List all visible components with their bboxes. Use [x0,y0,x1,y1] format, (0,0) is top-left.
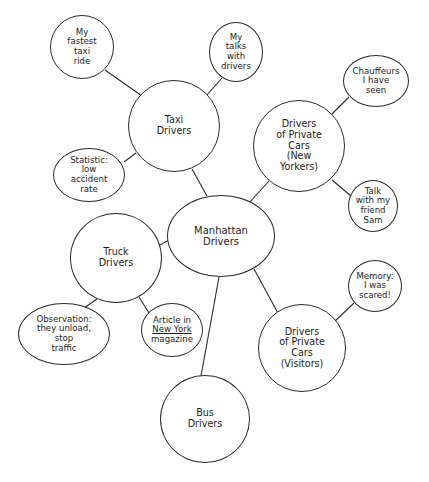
node-layer: Manhattan DriversTaxi DriversDrivers of … [0,0,429,482]
node-article-in-new-york-magazine[interactable]: Article inNew Yorkmagazine [141,303,203,357]
node-label-manhattan-drivers: Manhattan Drivers [191,225,251,247]
node-label-my-talks-with-drivers: My talks with drivers [218,33,254,72]
node-truck-drivers[interactable]: Truck Drivers [70,213,162,303]
node-label-article-in-new-york-magazine: Article inNew Yorkmagazine [148,316,196,345]
node-label-talk-with-my-friend-sam: Talk with my friend Sam [353,187,393,226]
node-my-fastest-taxi-ride[interactable]: My fastest taxi ride [50,15,114,79]
node-label-statistic-low-accident-rate: Statistic: low accident rate [67,156,111,195]
node-bus-drivers[interactable]: Bus Drivers [160,375,250,463]
node-label-observation-they-unload-stop-traffic: Observation: they unload, stop traffic [33,315,94,354]
node-label-memory-i-was-scared: Memory: I was scared! [353,272,396,301]
node-memory-i-was-scared[interactable]: Memory: I was scared! [348,260,402,312]
node-drivers-private-cars-visitors[interactable]: Drivers of Private Cars (Visitors) [258,304,346,392]
node-label-taxi-drivers: Taxi Drivers [154,115,195,136]
node-label-bus-drivers: Bus Drivers [185,408,226,429]
node-manhattan-drivers[interactable]: Manhattan Drivers [167,195,275,277]
node-taxi-drivers[interactable]: Taxi Drivers [128,80,220,172]
node-label-my-fastest-taxi-ride: My fastest taxi ride [64,28,99,67]
node-chauffeurs-i-have-seen[interactable]: Chauffeurs I have seen [343,55,409,107]
node-label-truck-drivers: Truck Drivers [96,247,137,268]
node-drivers-private-cars-new-yorkers[interactable]: Drivers of Private Cars (New Yorkers) [253,100,345,192]
node-my-talks-with-drivers[interactable]: My talks with drivers [209,22,263,82]
node-label-drivers-private-cars-new-yorkers: Drivers of Private Cars (New Yorkers) [273,119,325,173]
node-statistic-low-accident-rate[interactable]: Statistic: low accident rate [53,148,125,202]
node-talk-with-my-friend-sam[interactable]: Talk with my friend Sam [348,180,398,232]
node-label-chauffeurs-i-have-seen: Chauffeurs I have seen [350,67,403,96]
mind-map-canvas: Manhattan DriversTaxi DriversDrivers of … [0,0,429,482]
node-label-drivers-private-cars-visitors: Drivers of Private Cars (Visitors) [276,327,328,370]
node-observation-they-unload-stop-traffic[interactable]: Observation: they unload, stop traffic [18,303,110,365]
